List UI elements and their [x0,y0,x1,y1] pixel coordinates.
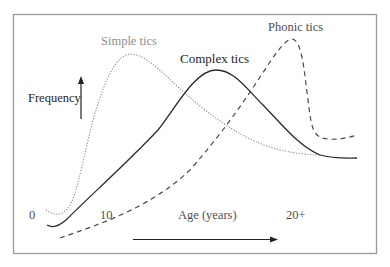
frequency-arrow-head-icon [78,76,84,84]
x-tick-0: 0 [29,209,35,222]
simple-tics-curve [46,54,322,214]
phonic-tics-label: Phonic tics [268,21,323,34]
tic-frequency-diagram: Simple tics Complex tics Phonic tics Fre… [0,0,390,267]
age-arrow-head-icon [270,237,278,243]
complex-tics-curve [47,70,357,227]
y-axis-label: Frequency [28,92,81,105]
diagram-canvas [0,0,390,267]
complex-tics-label: Complex tics [180,52,249,65]
x-tick-20plus: 20+ [286,209,306,222]
x-tick-10: 10 [100,209,113,222]
simple-tics-label: Simple tics [101,35,157,48]
x-axis-label: Age (years) [178,209,237,222]
